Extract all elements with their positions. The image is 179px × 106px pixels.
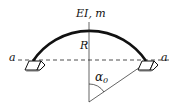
top-label: EI, m (75, 7, 106, 20)
arch-diagram: EI, m R a a α0 (0, 0, 179, 106)
angle-label: α0 (95, 70, 108, 85)
axis-label-right: a (161, 51, 168, 64)
right-support-icon (138, 61, 158, 72)
axis-label-left: a (9, 51, 16, 64)
radius-label: R (79, 39, 88, 52)
left-support-icon (25, 61, 45, 72)
arch-curve (33, 31, 146, 61)
angle-arc (89, 84, 104, 92)
